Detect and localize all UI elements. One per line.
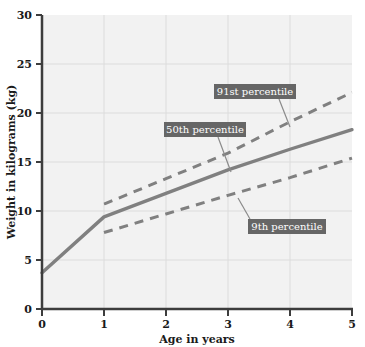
chart-canvas: 30 25 20 15 10 5 0 0 1 2 3 4 5 Age in ye… [0,0,365,347]
callout-9th-label: 9th percentile [251,221,322,232]
xtick-label-4: 4 [286,318,294,331]
xtick-label-5: 5 [348,318,356,331]
xtick-label-3: 3 [224,318,232,331]
xtick-label-1: 1 [100,318,108,331]
xtick-label-2: 2 [162,318,170,331]
callout-91st-percentile[interactable]: 91st percentile [214,84,296,99]
callout-9th-percentile[interactable]: 9th percentile [248,219,326,234]
callout-91st-label: 91st percentile [217,86,294,97]
callout-50th-label: 50th percentile [166,124,244,135]
callout-50th-percentile[interactable]: 50th percentile [164,122,246,137]
ytick-label-25: 25 [17,58,32,71]
ytick-label-10: 10 [17,205,33,218]
growth-chart: 30 25 20 15 10 5 0 0 1 2 3 4 5 Age in ye… [0,0,365,347]
ytick-label-20: 20 [17,107,33,120]
xtick-label-0: 0 [38,318,46,331]
x-axis-title: Age in years [158,333,235,346]
y-axis-title: Weight in kilograms (kg) [5,85,18,241]
ytick-label-30: 30 [17,9,33,22]
ytick-label-5: 5 [24,254,32,267]
ytick-label-0: 0 [24,303,32,316]
ytick-label-15: 15 [17,156,32,169]
